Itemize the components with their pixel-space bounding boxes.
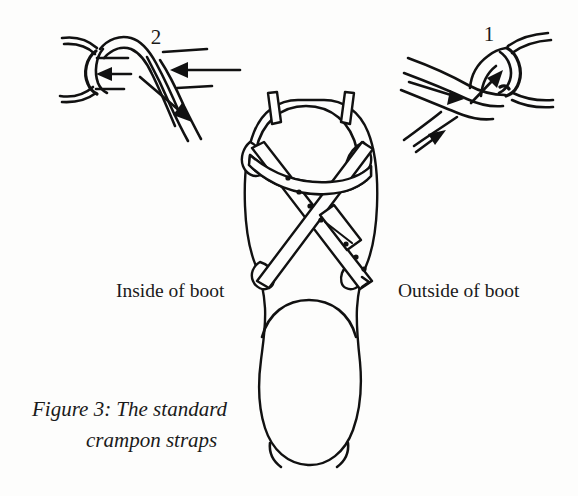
strap-hole-7 [361,266,366,271]
strap-hole-2 [296,189,301,194]
inset2-guideline-upper [163,49,207,52]
inset2-arrow-pull-left [96,67,131,81]
strap-hole-5 [343,241,348,246]
inset-2-number: 2 [151,25,162,49]
strap-hole-1 [285,175,290,180]
inset1-webbing-bot-outer [513,93,553,100]
inset2-guideline-lower [177,86,212,88]
label-outside-of-boot: Outside of boot [398,280,520,301]
inset2-arrow-right-head [170,62,188,78]
inset-2-group: 2 [60,25,240,141]
inset-1-number: 1 [484,22,495,46]
inset-1-group: 1 [401,22,553,152]
strap-hole-3 [307,203,312,208]
inset2-webbing-top-inner [64,44,95,54]
inset2-webbing-bot-outer [60,87,93,97]
inset2-arrow-left-head [96,67,112,81]
strap-hole-6 [353,254,358,259]
inset2-strap-edge-lower [104,48,175,126]
inset1-webbing-top-inner [512,40,551,53]
figure-crampon-straps: 2 [0,0,578,496]
inset1-arrow-up-shaft [471,80,493,103]
figure-illustration-canvas: 2 [0,0,578,496]
caption-line-1: Figure 3: The standard [31,397,228,421]
inset2-arrow-feed-right [170,62,240,78]
caption-line-2: crampon straps [86,428,217,452]
label-inside-of-boot: Inside of boot [116,280,225,301]
boot-with-crampon-straps [242,92,377,467]
